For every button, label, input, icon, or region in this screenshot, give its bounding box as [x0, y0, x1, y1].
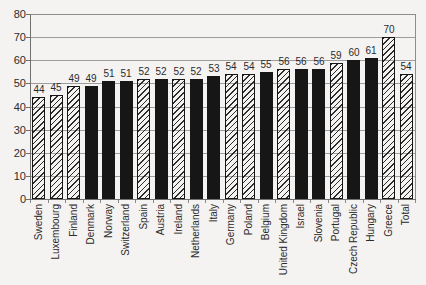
x-axis-tick [48, 200, 49, 203]
bar-chart: 0102030405060708044Sweden45Luxembourg49F… [0, 0, 426, 285]
category-label: Luxembourg [49, 204, 63, 284]
category-label: Portugal [329, 204, 343, 284]
y-tick-label: 30 [4, 124, 26, 137]
category-label: Switzerland [119, 204, 133, 284]
category-label: Greece [382, 204, 396, 284]
category-label: Belgium [259, 204, 273, 284]
category-label: Austria [154, 204, 168, 284]
bar-austria [155, 79, 168, 199]
bar-hungary [365, 58, 378, 199]
x-axis-tick [83, 200, 84, 203]
bar-ireland [172, 79, 185, 199]
bar-portugal [330, 63, 343, 199]
category-label: Poland [242, 204, 256, 284]
category-label: Finland [67, 204, 81, 284]
bar-germany [225, 74, 238, 199]
x-axis-tick [345, 200, 346, 203]
y-tick-label: 70 [4, 31, 26, 44]
category-label: Israel [294, 204, 308, 284]
bar-israel [295, 69, 308, 199]
x-axis-tick [188, 200, 189, 203]
category-label: Sweden [32, 204, 46, 284]
x-axis-tick [398, 200, 399, 203]
category-label: Spain [137, 204, 151, 284]
x-axis-tick [65, 200, 66, 203]
bar-total [400, 74, 413, 199]
x-axis-tick [170, 200, 171, 203]
x-axis-tick [30, 200, 31, 203]
bar-value-label: 54 [393, 61, 419, 72]
x-axis-tick [275, 200, 276, 203]
bar-netherlands [190, 79, 203, 199]
x-axis-tick [135, 200, 136, 203]
category-label: Italy [207, 204, 221, 284]
category-label: Denmark [84, 204, 98, 284]
y-tick-label: 80 [4, 8, 26, 21]
x-axis-tick [205, 200, 206, 203]
x-axis-tick [118, 200, 119, 203]
category-label: Hungary [364, 204, 378, 284]
bar-sweden [32, 97, 45, 199]
x-axis-tick [415, 200, 416, 203]
bar-luxembourg [50, 95, 63, 199]
bar-czech-republic [347, 60, 360, 199]
bar-poland [242, 74, 255, 199]
y-tick-label: 0 [4, 193, 26, 206]
bar-denmark [85, 86, 98, 199]
x-axis-tick [153, 200, 154, 203]
y-gridline [30, 37, 415, 38]
x-axis-tick [258, 200, 259, 203]
bar-italy [207, 76, 220, 199]
bar-value-label: 70 [376, 24, 402, 35]
plot-border-right [415, 14, 416, 199]
bar-value-label: 61 [358, 45, 384, 56]
y-tick-label: 50 [4, 77, 26, 90]
y-tick-label: 10 [4, 170, 26, 183]
x-axis-tick [328, 200, 329, 203]
x-axis-tick [100, 200, 101, 203]
bar-spain [137, 79, 150, 199]
y-axis-line [30, 14, 31, 200]
category-label: Norway [102, 204, 116, 284]
y-tick-label: 20 [4, 147, 26, 160]
bar-slovenia [312, 69, 325, 199]
category-label: Czech Republic [347, 204, 361, 284]
plot-border-top [30, 14, 415, 15]
x-axis-tick [310, 200, 311, 203]
category-label: United Kingdom [277, 204, 291, 284]
y-tick-label: 60 [4, 54, 26, 67]
x-axis-tick [293, 200, 294, 203]
y-tick-label: 40 [4, 101, 26, 114]
bar-belgium [260, 72, 273, 199]
category-label: Total [399, 204, 413, 284]
category-label: Ireland [172, 204, 186, 284]
category-label: Germany [224, 204, 238, 284]
x-axis-tick [240, 200, 241, 203]
x-axis-tick [363, 200, 364, 203]
bar-finland [67, 86, 80, 199]
bar-united-kingdom [277, 69, 290, 199]
category-label: Slovenia [312, 204, 326, 284]
bar-norway [102, 81, 115, 199]
category-label: Netherlands [189, 204, 203, 284]
x-axis-tick [223, 200, 224, 203]
bar-switzerland [120, 81, 133, 199]
x-axis-tick [380, 200, 381, 203]
